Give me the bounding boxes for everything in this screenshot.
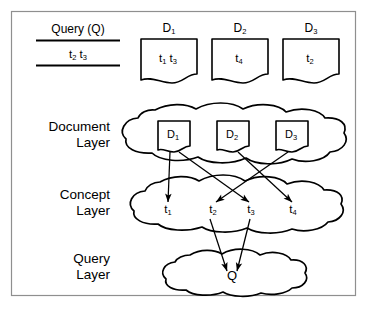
svg-text:Document: Document: [48, 119, 110, 134]
svg-text:Query: Query: [73, 251, 110, 266]
query-node-label: Q: [227, 268, 237, 283]
document-node-d3: D3: [276, 121, 308, 152]
query-title: Query (Q): [51, 22, 104, 36]
svg-text:Layer: Layer: [76, 203, 110, 218]
svg-text:Layer: Layer: [76, 267, 110, 282]
document-node-d1: D1: [158, 121, 190, 152]
svg-text:Concept: Concept: [60, 187, 111, 202]
query-node-q: Q: [227, 268, 237, 283]
layer-label-query: Query Layer: [73, 251, 110, 282]
document-node-d2: D2: [217, 121, 249, 152]
svg-text:Layer: Layer: [76, 135, 110, 150]
diagram-figure: Query (Q) t2 t3 D1 t1 t3 D2 t4: [0, 0, 367, 310]
concept-layer-cloud: [130, 175, 343, 233]
